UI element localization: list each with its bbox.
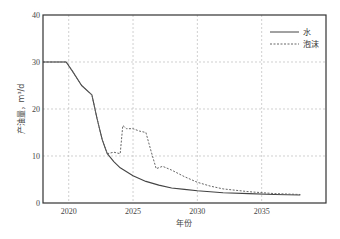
grid-lines — [43, 15, 326, 203]
y-tick-label: 10 — [32, 152, 40, 161]
legend-label-water: 水 — [303, 27, 311, 37]
x-axis-ticks: 2020202520302035 — [61, 207, 270, 216]
x-axis-label: 年份 — [176, 218, 192, 228]
x-tick-label: 2025 — [125, 207, 141, 216]
y-tick-label: 30 — [32, 58, 40, 67]
y-axis-label: 产油量，m³/d — [16, 84, 26, 135]
x-tick-label: 2020 — [61, 207, 77, 216]
y-axis-ticks: 010203040 — [32, 11, 40, 208]
legend-label-foam: 泡沫 — [303, 39, 319, 49]
line-chart: 2020202520302035 010203040 年份 产油量，m³/d 水… — [0, 0, 340, 239]
y-tick-label: 20 — [32, 105, 40, 114]
y-tick-label: 40 — [32, 11, 40, 20]
y-tick-label: 0 — [36, 199, 40, 208]
legend: 水 泡沫 — [270, 27, 319, 49]
x-tick-label: 2035 — [254, 207, 270, 216]
x-tick-label: 2030 — [189, 207, 205, 216]
